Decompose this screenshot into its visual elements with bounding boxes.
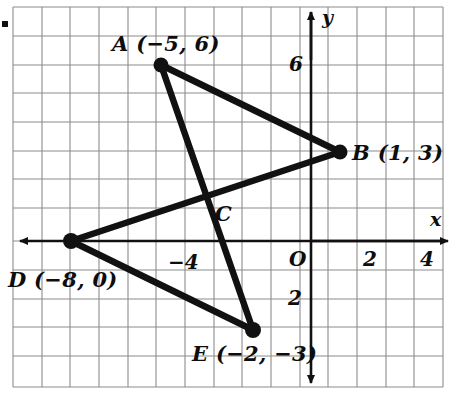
- point-label-D: D (−8, 0): [8, 269, 118, 290]
- y-axis-label: y: [322, 8, 333, 27]
- point-label-C: C: [215, 203, 232, 224]
- x-axis-label: x: [430, 210, 442, 229]
- origin-label: O: [289, 249, 306, 269]
- point-label-E: E (−2, −3): [192, 343, 317, 364]
- point-label-A: A (−5, 6): [112, 33, 220, 54]
- point-label-B: B (1, 3): [352, 142, 443, 163]
- point-B: [333, 145, 348, 160]
- x-tick-label-4: 4: [420, 249, 434, 269]
- point-D: [63, 233, 79, 249]
- y-tick-label-6: 6: [289, 54, 303, 74]
- point-E: [245, 322, 261, 338]
- x-tick-label-neg4: −4: [168, 252, 199, 272]
- x-tick-label-2: 2: [363, 249, 377, 269]
- grid-lines: [13, 7, 443, 387]
- y-tick-label-neg2: 2: [288, 288, 302, 308]
- point-A: [154, 58, 169, 73]
- coordinate-plane-figure: A (−5, 6) B (1, 3) C D (−8, 0) E (−2, −3…: [0, 0, 457, 405]
